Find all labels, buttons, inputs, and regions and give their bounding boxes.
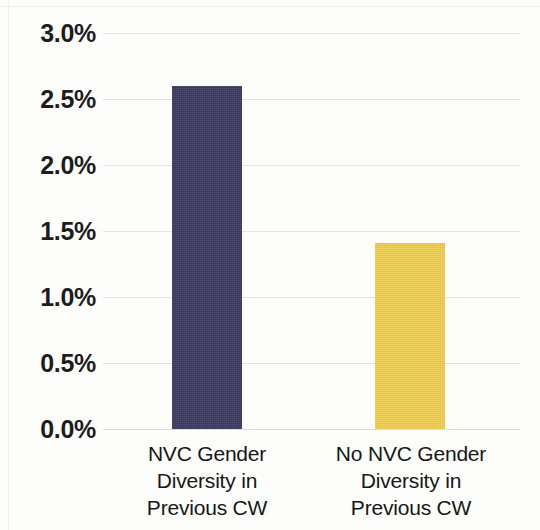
category-label-nvc-gender-diversity: NVC Gender Diversity in Previous CW xyxy=(102,440,312,521)
gridline-2.0 xyxy=(103,165,520,166)
bar-no-nvc-gender-diversity xyxy=(375,243,445,429)
gridline-0.5 xyxy=(103,363,520,364)
bar-chart-figure: 3.0% 2.5% 2.0% 1.5% 1.0% 0.5% 0.0% NVC G… xyxy=(0,0,540,530)
y-axis-tick-label-1.5: 1.5% xyxy=(14,219,96,244)
category-label-line-3: Previous CW xyxy=(102,494,312,521)
bar-nvc-gender-diversity xyxy=(172,86,242,429)
gridline-1.5 xyxy=(103,231,520,232)
category-label-line-2: Diversity in xyxy=(306,467,516,494)
gridline-3.0 xyxy=(103,33,520,34)
y-axis-tick-label-0.0: 0.0% xyxy=(14,417,96,442)
category-label-line-2: Diversity in xyxy=(102,467,312,494)
y-axis-tick-label-3.0: 3.0% xyxy=(14,21,96,46)
category-label-line-3: Previous CW xyxy=(306,494,516,521)
plot-area: 3.0% 2.5% 2.0% 1.5% 1.0% 0.5% 0.0% NVC G… xyxy=(0,0,540,530)
category-label-line-1: No NVC Gender xyxy=(306,440,516,467)
gridline-0.0-baseline xyxy=(103,429,520,430)
y-axis-tick-label-2.0: 2.0% xyxy=(14,153,96,178)
y-axis-tick-label-1.0: 1.0% xyxy=(14,285,96,310)
y-axis-tick-label-0.5: 0.5% xyxy=(14,351,96,376)
y-axis-tick-label-2.5: 2.5% xyxy=(14,87,96,112)
gridline-2.5 xyxy=(103,99,520,100)
category-label-line-1: NVC Gender xyxy=(102,440,312,467)
gridline-1.0 xyxy=(103,297,520,298)
category-label-no-nvc-gender-diversity: No NVC Gender Diversity in Previous CW xyxy=(306,440,516,521)
